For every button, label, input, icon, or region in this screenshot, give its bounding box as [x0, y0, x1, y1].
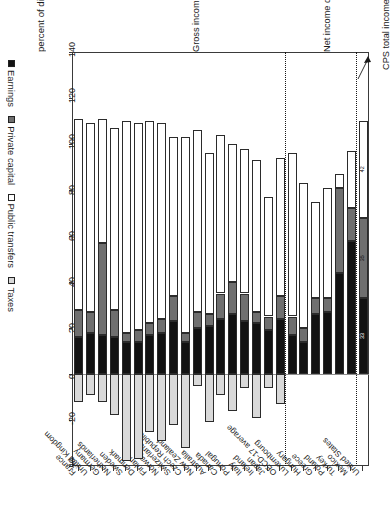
segment-taxes [145, 374, 154, 432]
segment-taxes [205, 374, 214, 422]
segment-earnings [98, 335, 107, 374]
segment-private-capital [134, 330, 143, 342]
bar-row [122, 0, 131, 505]
bar-row [157, 0, 166, 505]
bar-row [299, 0, 308, 505]
legend-label: Public transfers [6, 204, 17, 269]
bar-row [252, 0, 261, 505]
segment-private-capital [86, 312, 95, 333]
segment-public-transfers [205, 153, 214, 314]
bar-row [98, 0, 107, 505]
segment-private-capital [228, 282, 237, 314]
segment-public-transfers [323, 188, 332, 298]
segment-earnings [74, 337, 83, 374]
legend-item[interactable]: Private capital [6, 116, 17, 185]
segment-earnings [122, 342, 131, 374]
bar-row [74, 0, 83, 505]
legend-swatch-icon [8, 60, 15, 67]
segment-taxes [98, 374, 107, 402]
bar-row [110, 0, 119, 505]
segment-public-transfers [252, 160, 261, 312]
bar-row [323, 0, 332, 505]
bar-row [228, 0, 237, 505]
segment-taxes [169, 374, 178, 425]
segment-private-capital [145, 323, 154, 335]
segment-private-capital [252, 312, 261, 324]
segment-private-capital [264, 317, 273, 331]
segment-taxes [122, 374, 131, 461]
segment-private-capital [299, 328, 308, 342]
bar-value-label: 35 [358, 219, 367, 298]
segment-earnings [252, 323, 261, 374]
segment-taxes [276, 374, 285, 404]
segment-private-capital [347, 208, 356, 240]
segment-public-transfers [157, 123, 166, 319]
segment-public-transfers [122, 121, 131, 333]
segment-public-transfers [347, 151, 356, 209]
segment-private-capital [193, 312, 202, 328]
segment-private-capital [205, 314, 214, 326]
legend-item[interactable]: Taxes [6, 278, 17, 313]
segment-private-capital [181, 333, 190, 342]
segment-earnings [86, 333, 95, 374]
segment-public-transfers [145, 121, 154, 323]
legend-swatch-icon [8, 116, 15, 123]
bar-row [181, 0, 190, 505]
bar-row [264, 0, 273, 505]
bar-value-label: 42 [358, 122, 367, 217]
segment-public-transfers [311, 202, 320, 299]
segment-taxes [228, 374, 237, 411]
segment-private-capital: 35 [359, 218, 368, 299]
segment-public-transfers: 42 [359, 121, 368, 218]
segment-public-transfers [74, 119, 83, 310]
segment-earnings [205, 326, 214, 374]
segment-public-transfers [299, 183, 308, 328]
segment-taxes [86, 374, 95, 395]
segment-private-capital [98, 243, 107, 335]
segment-earnings [134, 342, 143, 374]
segment-earnings [217, 319, 226, 374]
segment-earnings [240, 321, 249, 374]
segment-public-transfers [288, 153, 297, 316]
bar-row [217, 0, 226, 505]
legend-item[interactable]: Earnings [6, 60, 17, 107]
segment-earnings [335, 273, 344, 374]
segment-public-transfers [110, 128, 119, 310]
segment-public-transfers [98, 119, 107, 243]
group-separator [356, 52, 357, 466]
segment-public-transfers [86, 123, 95, 312]
segment-taxes [193, 374, 202, 386]
segment-private-capital [110, 310, 119, 338]
annotation-cps-total-income-data: CPS total income data [381, 0, 392, 70]
bar-row [276, 0, 285, 505]
segment-earnings [228, 314, 237, 374]
segment-taxes [252, 374, 261, 418]
segment-earnings: 33 [359, 298, 368, 374]
segment-taxes [134, 374, 143, 459]
legend-label: Earnings [6, 70, 17, 107]
bar-row [145, 0, 154, 505]
annotation-net-income-data: Net income data [322, 0, 332, 52]
bar-row [240, 0, 249, 505]
segment-private-capital [276, 296, 285, 319]
segment-earnings [110, 337, 119, 374]
legend-label: Taxes [6, 288, 17, 313]
segment-public-transfers [228, 144, 237, 282]
segment-earnings [323, 312, 332, 374]
legend-item[interactable]: Public transfers [6, 194, 17, 269]
segment-earnings [193, 328, 202, 374]
segment-private-capital [288, 317, 297, 335]
segment-earnings [288, 335, 297, 374]
segment-taxes [74, 374, 83, 402]
segment-private-capital [217, 294, 226, 319]
segment-earnings [157, 333, 166, 374]
cps-annotation-arrow [357, 54, 371, 80]
segment-taxes [157, 374, 166, 441]
segment-private-capital [74, 310, 83, 338]
bar-value-label: 33 [358, 299, 367, 373]
value-axis-line [72, 52, 73, 466]
x-axis-title: percent of disposable income [35, 0, 46, 52]
segment-private-capital [311, 298, 320, 314]
